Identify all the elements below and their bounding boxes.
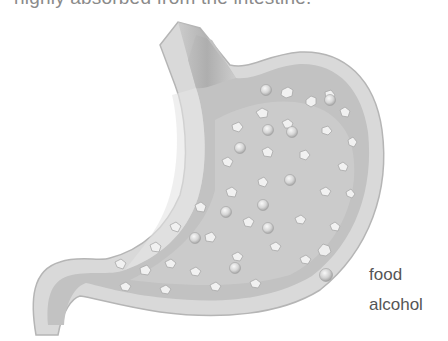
legend-label-alcohol: alcohol xyxy=(369,295,423,315)
alcohol-sphere-icon xyxy=(318,267,334,283)
legend-label-food: food xyxy=(369,265,402,285)
stomach-diagram xyxy=(0,0,448,341)
food-flake-icon xyxy=(315,242,333,258)
